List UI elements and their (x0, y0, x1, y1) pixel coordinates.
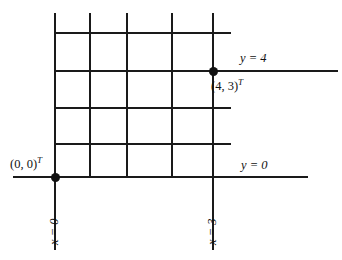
label-x-equals-3: x = 3 (206, 219, 219, 245)
label-data-point-text: (4, 3) (211, 79, 238, 93)
grid-line-horizontal-lower (55, 143, 231, 145)
label-y-equals-4: y = 4 (240, 52, 266, 65)
coordinate-grid-figure: y = 4 (4, 3)T (0, 0)T y = 0 x = 0 x = 3 (0, 0, 342, 260)
grid-line-horizontal-top (55, 32, 231, 34)
point-marker-data (209, 67, 218, 76)
label-origin-point-text: (0, 0) (10, 157, 37, 171)
axis-line-x-equals-3 (212, 13, 214, 250)
label-x-equals-0: x = 0 (48, 219, 61, 245)
label-origin-point-superscript: T (37, 155, 42, 165)
label-data-point: (4, 3)T (211, 80, 243, 93)
label-x-equals-3-text: x = 3 (205, 219, 219, 245)
point-marker-origin (51, 173, 60, 182)
grid-line-vertical-4 (171, 13, 173, 177)
label-y-equals-4-text: y = 4 (240, 51, 266, 65)
label-origin-point: (0, 0)T (10, 158, 42, 171)
label-y-equals-0-text: y = 0 (241, 158, 267, 172)
axis-line-x-equals-0 (54, 13, 56, 250)
grid-line-horizontal-mid (55, 107, 231, 109)
label-data-point-superscript: T (238, 77, 243, 87)
grid-line-vertical-3 (126, 13, 128, 177)
label-x-equals-0-text: x = 0 (47, 219, 61, 245)
axis-line-y-equals-4 (55, 70, 338, 72)
label-y-equals-0: y = 0 (241, 159, 267, 172)
grid-line-vertical-2 (89, 13, 91, 177)
